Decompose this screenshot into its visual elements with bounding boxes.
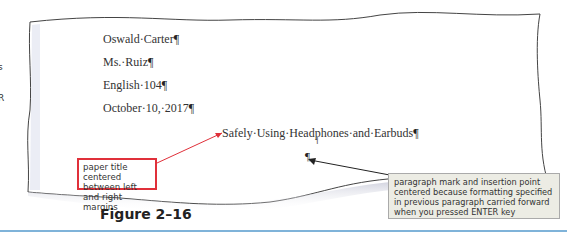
figure-caption: Figure 2–16 bbox=[100, 206, 192, 222]
callout-title-centered: paper title centered between left and ri… bbox=[77, 158, 157, 190]
callout-paragraph-mark: paragraph mark and insertion point cente… bbox=[388, 173, 560, 219]
divider bbox=[0, 230, 567, 232]
